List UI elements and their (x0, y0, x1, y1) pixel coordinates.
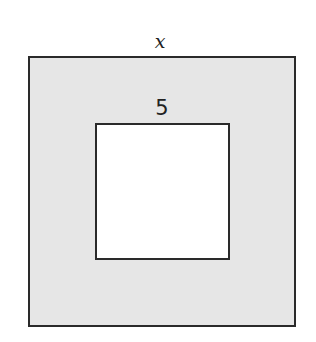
inner-square-unshaded (95, 123, 230, 260)
diagram-canvas: x 5 (0, 0, 316, 342)
inner-side-label: 5 (150, 96, 174, 120)
outer-side-label: x (150, 30, 170, 52)
